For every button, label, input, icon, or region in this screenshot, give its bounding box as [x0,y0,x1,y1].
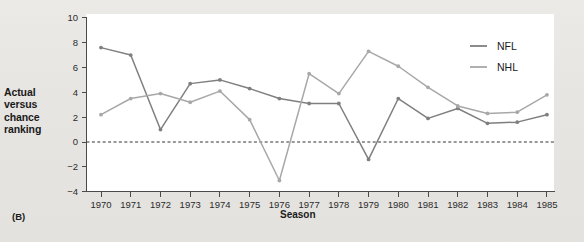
data-point-nhl-1974 [218,89,222,93]
x-tick-label: 1980 [388,199,409,210]
data-point-nfl-1984 [515,120,519,124]
y-tick-label: 2 [73,112,78,123]
data-point-nfl-1975 [248,87,252,91]
x-tick-label: 1970 [90,199,111,210]
data-point-nfl-1977 [307,102,311,106]
data-point-nhl-1983 [486,112,490,116]
y-tick-label: 6 [73,62,78,73]
data-point-nfl-1976 [277,97,281,101]
data-point-nfl-1981 [426,117,430,121]
data-point-nhl-1984 [515,110,519,114]
x-tick-label: 1978 [328,199,349,210]
y-tick-label: −4 [67,186,78,197]
data-point-nhl-1973 [188,100,192,104]
y-tick-group: 1086420−2−4 [67,12,86,197]
y-tick-label: −2 [67,161,78,172]
legend: NFLNHL [470,40,518,73]
series-line-nfl [101,48,547,160]
x-tick-label: 1971 [120,199,141,210]
line-chart: 1086420−2−4 1970197119721973197419751976… [0,0,584,242]
legend-label-nfl: NFL [497,40,517,52]
data-point-nhl-1978 [337,92,341,96]
x-tick-label: 1979 [358,199,379,210]
data-point-nfl-1970 [99,46,103,50]
data-point-nhl-1985 [545,93,549,97]
x-tick-label: 1985 [536,199,557,210]
data-point-nfl-1972 [159,128,163,132]
data-point-nfl-1979 [367,157,371,161]
data-point-nhl-1981 [426,85,430,89]
data-point-nfl-1974 [218,78,222,82]
legend-label-nhl: NHL [497,61,518,73]
x-tick-label: 1975 [239,199,260,210]
data-point-nhl-1976 [277,179,281,183]
y-tick-label: 10 [67,12,78,23]
data-point-nhl-1979 [367,49,371,53]
data-point-nfl-1985 [545,113,549,117]
x-axis: 1970197119721973197419751976197719781979… [87,192,558,211]
y-tick-label: 0 [73,136,78,147]
x-tick-label: 1974 [209,199,230,210]
y-axis: 1086420−2−4 [67,12,86,197]
data-point-nhl-1970 [99,113,103,117]
x-tick-label: 1983 [477,199,498,210]
y-tick-label: 4 [73,87,78,98]
data-point-nfl-1980 [396,97,400,101]
x-tick-label: 1973 [180,199,201,210]
data-point-nfl-1983 [486,121,490,125]
data-point-nhl-1980 [396,64,400,68]
x-tick-group: 1970197119721973197419751976197719781979… [90,192,557,211]
x-tick-label: 1981 [417,199,438,210]
y-tick-label: 8 [73,37,78,48]
x-tick-label: 1984 [507,199,528,210]
data-point-nfl-1973 [188,82,192,86]
data-point-nfl-1978 [337,102,341,106]
x-tick-label: 1972 [150,199,171,210]
figure-root: Actual versus chance ranking Season (B) … [0,0,584,242]
data-point-nhl-1977 [307,72,311,76]
x-tick-label: 1976 [269,199,290,210]
series-line-nhl [101,51,547,180]
data-point-nhl-1972 [159,92,163,96]
x-tick-label: 1977 [299,199,320,210]
data-point-nfl-1971 [129,53,133,57]
data-point-nhl-1975 [248,118,252,122]
data-point-nhl-1971 [129,97,133,101]
x-tick-label: 1982 [447,199,468,210]
data-point-nhl-1982 [456,104,460,108]
